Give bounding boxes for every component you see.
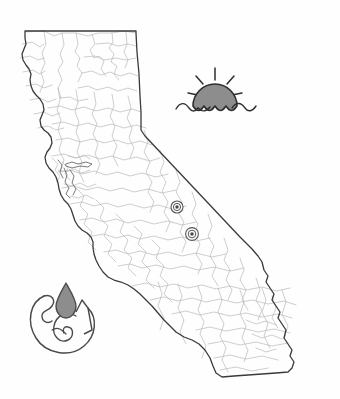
figure-root: California state map illustration bbox=[0, 0, 340, 399]
location-marker-2[interactable] bbox=[186, 228, 199, 241]
figure-background bbox=[0, 0, 340, 399]
location-marker-1[interactable] bbox=[171, 201, 183, 213]
california-map-figure bbox=[0, 0, 340, 399]
